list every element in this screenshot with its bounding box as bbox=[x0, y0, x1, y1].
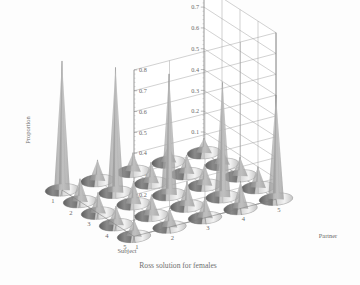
partner-tick-label: 2 bbox=[171, 234, 174, 241]
z-tick-label-left: 0.5 bbox=[191, 45, 199, 52]
z-tick-label-left: 0.6 bbox=[191, 24, 199, 31]
chart-caption: Ross solution for females bbox=[139, 261, 216, 270]
z-tick-label-left: 0.3 bbox=[191, 87, 199, 94]
z-tick-label-right: 0.5 bbox=[139, 129, 147, 136]
axis-label-partner: Partner bbox=[319, 232, 338, 239]
z-tick-label-left: 0.4 bbox=[191, 66, 199, 73]
axis-label-proportion: Proportion bbox=[24, 116, 31, 144]
chart-container: 00.10.20.30.40.50.60.70.8 00.10.20.30.40… bbox=[0, 0, 360, 285]
z-tick-label-left: 0.2 bbox=[191, 107, 199, 114]
subject-tick-label: 1 bbox=[51, 197, 54, 204]
cone-plot-3d: 00.10.20.30.40.50.60.70.8 00.10.20.30.40… bbox=[0, 0, 360, 285]
z-tick-label-right: 0.4 bbox=[139, 149, 147, 156]
z-tick-label-right: 0.2 bbox=[139, 191, 147, 198]
z-tick-label-left: 0.1 bbox=[191, 128, 199, 135]
z-tick-label-right: 0.7 bbox=[139, 87, 147, 94]
z-tick-label-right: 0.8 bbox=[139, 66, 147, 73]
z-tick-label-right: 0.6 bbox=[139, 108, 147, 115]
axis-label-subject: Subject bbox=[117, 247, 136, 254]
subject-tick-label: 2 bbox=[69, 209, 72, 216]
z-tick-label-left: 0.7 bbox=[191, 3, 199, 10]
